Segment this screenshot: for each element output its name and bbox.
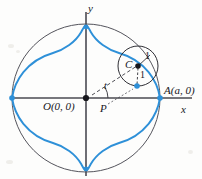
- center-point-C: [135, 63, 141, 69]
- angle-t-label: t: [104, 81, 107, 91]
- astroid-arc-q4: [86, 98, 160, 170]
- dashed-ray-OC: [92, 64, 140, 95]
- point-A: [157, 95, 163, 101]
- x-axis-label: x: [181, 104, 186, 115]
- radius-label-upper: 1: [145, 51, 150, 61]
- leader-line-P: [108, 89, 133, 104]
- origin-label: O(0, 0): [43, 101, 75, 112]
- y-axis-label: y: [88, 3, 93, 14]
- radius-label-lower: 1: [140, 70, 145, 80]
- figure-container: y x O(0, 0) A(a, 0) C P t 1 1: [0, 0, 202, 179]
- astroid-arc-q2: [12, 26, 86, 98]
- origin-point: [83, 95, 89, 101]
- point-A-label: A(a, 0): [164, 85, 195, 96]
- left-cusp-point: [9, 95, 15, 101]
- top-cusp-point: [84, 25, 89, 30]
- point-P-label: P: [100, 103, 107, 114]
- tracing-point-P: [134, 83, 140, 89]
- radius-segment-lower: [137, 68, 138, 85]
- astroid-arc-q1: [86, 26, 160, 98]
- center-C-label: C: [125, 59, 132, 70]
- bottom-cusp-point: [84, 167, 89, 172]
